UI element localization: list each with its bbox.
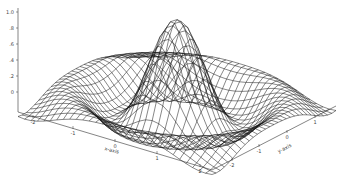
y-axis-title: y-axis (276, 142, 293, 155)
z-tick-label: 0 (11, 89, 14, 95)
x-tick-label: 2 (198, 168, 201, 174)
mesh-line (130, 52, 324, 116)
mesh-line (72, 39, 266, 145)
y-tick-label: -2 (230, 162, 235, 168)
y-tick-label: -1 (257, 148, 262, 154)
y-tick-label: 0 (285, 134, 288, 140)
surface-plot: 1.0.8.6.4.20 -2-1012 -2-101 x-axis y-axi… (0, 0, 354, 177)
wireframe-mesh (18, 20, 336, 175)
y-tick-label: 1 (313, 119, 316, 125)
x-tick-label: 1 (155, 155, 158, 161)
mesh-line (35, 99, 229, 163)
z-tick-label: .4 (9, 57, 14, 63)
z-tick-label: .2 (9, 73, 14, 79)
x-tick-label: -1 (71, 130, 76, 136)
z-tick-label: .8 (9, 25, 14, 31)
z-tick-label: 1.0 (6, 9, 14, 15)
x-tick-label: -2 (31, 119, 36, 125)
mesh-line (109, 22, 233, 142)
x-axis-title: x-axis (104, 145, 120, 154)
z-axis-ticks: 1.0.8.6.4.20 (6, 9, 18, 95)
z-tick-label: .6 (9, 41, 14, 47)
